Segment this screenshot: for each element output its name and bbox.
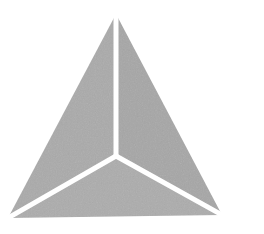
image-canvas	[0, 0, 264, 234]
segmented-triangle-logo	[0, 0, 264, 234]
center-junction-point	[113, 153, 118, 158]
